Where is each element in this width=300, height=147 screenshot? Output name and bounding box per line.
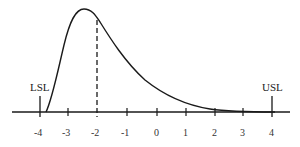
svg-text:2: 2 [212, 127, 217, 138]
svg-text:3: 3 [240, 127, 245, 138]
svg-text:-3: -3 [62, 127, 70, 138]
lsl-label: LSL [30, 81, 50, 93]
svg-text:4: 4 [269, 127, 274, 138]
distribution-curve [46, 9, 275, 112]
usl-label: USL [262, 81, 283, 93]
svg-text:-2: -2 [91, 127, 99, 138]
svg-text:0: 0 [154, 127, 159, 138]
tick-labels: -4 -3 -2 -1 0 1 2 3 4 [34, 127, 274, 138]
svg-text:1: 1 [183, 127, 188, 138]
svg-text:-1: -1 [121, 127, 129, 138]
distribution-diagram: LSL USL -4 -3 -2 -1 0 1 2 3 4 [0, 0, 300, 147]
svg-text:-4: -4 [34, 127, 42, 138]
